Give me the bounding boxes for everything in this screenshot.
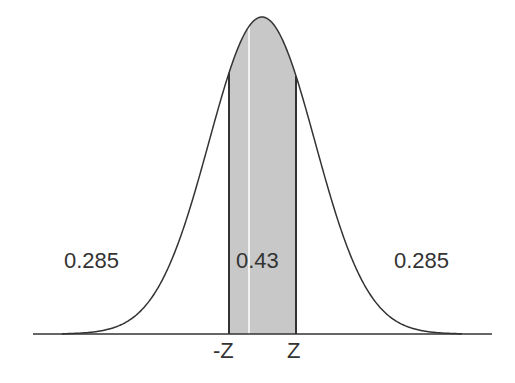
shaded-central-region [229, 17, 296, 334]
right-tail-area-label: 0.285 [394, 250, 449, 272]
normal-curve-diagram [0, 0, 515, 383]
center-area-label: 0.43 [236, 250, 279, 272]
left-tail-area-label: 0.285 [64, 250, 119, 272]
neg-z-tick-label: -Z [213, 340, 234, 362]
pos-z-tick-label: Z [287, 340, 300, 362]
